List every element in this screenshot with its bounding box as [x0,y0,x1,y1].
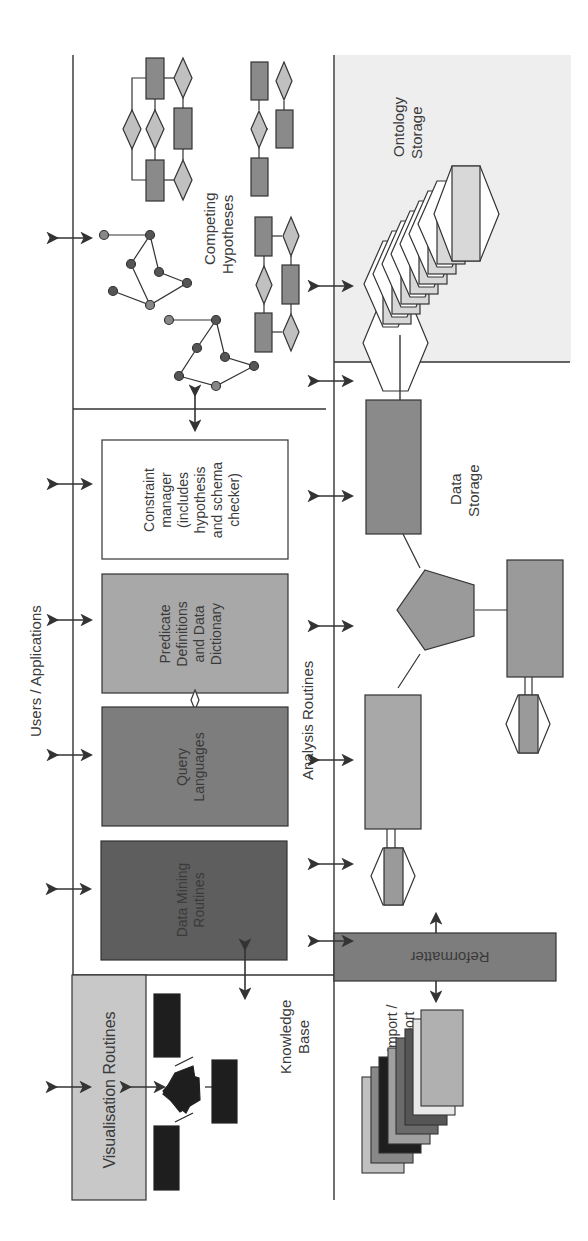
users-applications-label: Users / Applications [27,605,44,737]
hypothesis-graph-2 [165,316,259,391]
analysis-routines-label: Analysis Routines [299,661,316,780]
svg-text:and schema: and schema [209,462,225,538]
svg-text:hypothesis: hypothesis [192,467,208,534]
svg-text:Storage: Storage [465,464,482,517]
competing-hypotheses-label: Competing Hypotheses [201,192,236,274]
data-storage-network [365,400,563,905]
data-mining-box: Data Mining Routines [101,841,287,960]
svg-text:manager: manager [158,472,174,528]
svg-text:Definitions: Definitions [174,601,190,666]
svg-text:Constraint: Constraint [141,468,157,532]
svg-text:Hypotheses: Hypotheses [219,195,236,274]
svg-text:Query: Query [174,748,190,786]
svg-text:Data: Data [447,473,464,505]
svg-text:and Data: and Data [191,605,207,662]
hypothesis-graph-1 [100,231,192,310]
knowledge-base-network [154,994,237,1190]
svg-text:Reformatter: Reformatter [410,949,489,966]
svg-text:Knowledge: Knowledge [277,1000,294,1074]
hypothesis-schema-3 [255,217,299,352]
hypothesis-schema-1 [123,58,192,201]
constraint-manager-box: Constraint manager (includes hypothesis … [102,440,288,559]
query-languages-box: Query Languages [102,707,288,826]
import-export-stack [362,1010,463,1173]
reformatter-box: Reformatter [334,933,556,981]
svg-text:(includes: (includes [175,472,191,528]
knowledge-base-label: Knowledge Base [277,1000,312,1074]
hypothesis-schema-2 [251,62,293,196]
svg-text:Storage: Storage [408,106,425,159]
svg-text:Ontology: Ontology [390,96,407,157]
svg-text:Base: Base [295,1020,312,1054]
svg-text:Routines: Routines [191,872,207,927]
svg-text:Visualisation Routines: Visualisation Routines [101,1011,118,1168]
system-architecture-diagram: Users / Applications Analysis Routines C… [0,0,588,1241]
predicate-definitions-box: Predicate Definitions and Data Dictionar… [102,574,288,693]
svg-text:Dictionary: Dictionary [208,603,224,665]
svg-text:Competing: Competing [201,192,218,265]
svg-text:Languages: Languages [191,732,207,801]
svg-text:checker): checker) [226,473,242,527]
data-storage-label: Data Storage [447,464,482,517]
svg-text:Data Mining: Data Mining [174,863,190,938]
svg-text:Predicate: Predicate [157,604,173,663]
